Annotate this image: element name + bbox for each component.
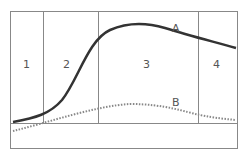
curve-b-label: B — [172, 96, 180, 109]
phase-label-4: 4 — [213, 58, 220, 71]
phase-diagram: 1 2 3 4 A B — [0, 0, 248, 154]
curve-a — [13, 24, 236, 122]
outer-frame — [11, 12, 238, 149]
phase-label-3: 3 — [143, 58, 150, 71]
curve-a-label: A — [172, 22, 180, 35]
phase-label-1: 1 — [23, 58, 30, 71]
curve-b — [13, 104, 236, 131]
phase-label-2: 2 — [63, 58, 70, 71]
